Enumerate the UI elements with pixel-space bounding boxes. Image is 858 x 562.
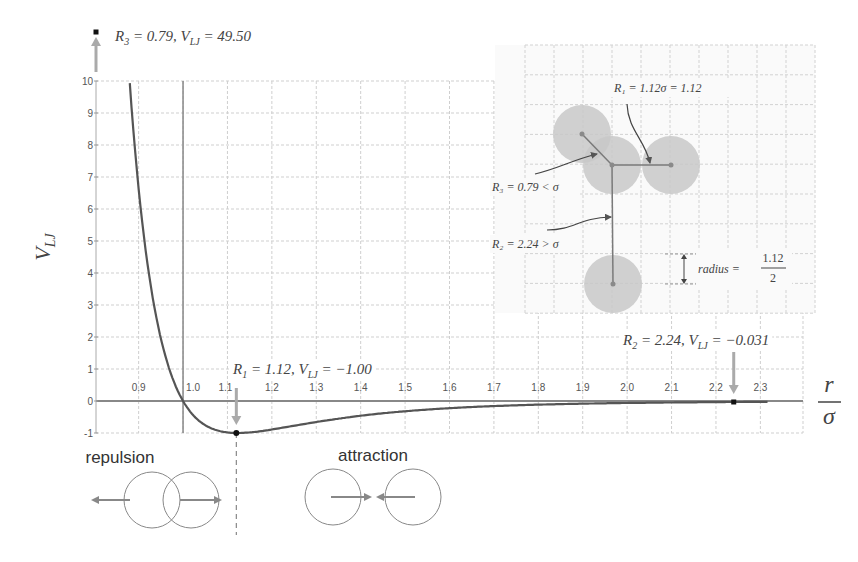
r2-label-part: = 2.24, xyxy=(637,332,688,348)
inset-label-radius-denominator: 2 xyxy=(770,271,776,285)
inset-atom-center xyxy=(669,163,674,168)
y-tick-label: 10 xyxy=(82,76,94,87)
attraction-label: attraction xyxy=(338,446,408,465)
inset-atom-center xyxy=(610,163,615,168)
x-tick-label: 2.3 xyxy=(753,382,767,393)
inset-atom-center xyxy=(611,282,616,287)
repulsion-label: repulsion xyxy=(86,448,155,467)
r3-point xyxy=(94,30,99,35)
inset-bond-r2 xyxy=(612,165,613,284)
inset-label-r3: R₃ = 0.79 < σ xyxy=(491,180,560,194)
y-axis-label: VLJ xyxy=(30,232,58,260)
y-axis-label-sub: LJ xyxy=(43,232,58,248)
r2-label-part: LJ xyxy=(697,340,709,351)
y-tick-label: 3 xyxy=(87,300,93,311)
r2-point xyxy=(731,399,736,404)
y-tick-label: 2 xyxy=(87,332,93,343)
inset-label-radius-numerator: 1.12 xyxy=(763,251,784,265)
x-tick-label: 2.1 xyxy=(665,382,679,393)
lj-potential-chart: R₁ = 1.12σ = 1.12R₃ = 0.79 < σR₂ = 2.24 … xyxy=(0,0,858,562)
y-tick-label: 9 xyxy=(87,108,93,119)
y-tick-label: 8 xyxy=(87,140,93,151)
x-tick-label: 1.1 xyxy=(218,382,232,393)
x-tick-label: 1.7 xyxy=(487,382,501,393)
svg-text:VLJ: VLJ xyxy=(30,232,58,260)
x-tick-label: 1.6 xyxy=(443,382,457,393)
x-axis-label-numerator: r xyxy=(824,371,834,397)
r1-label-part: = 1.12, xyxy=(247,361,298,377)
r1-label-part: R xyxy=(232,361,242,377)
y-tick-label: -1 xyxy=(84,428,93,439)
r1-point xyxy=(233,430,239,436)
r1-arrow-head xyxy=(231,416,241,425)
y-tick-label: 7 xyxy=(87,172,93,183)
y-tick-label: 5 xyxy=(87,236,93,247)
r1-label-part: = −1.00 xyxy=(318,361,372,377)
y-tick-label: 0 xyxy=(87,396,93,407)
x-axis-label-denominator: σ xyxy=(823,403,836,429)
force-illustrations: repulsionattraction xyxy=(86,446,442,528)
inset-diagram: R₁ = 1.12σ = 1.12R₃ = 0.79 < σR₂ = 2.24 … xyxy=(490,45,815,313)
r2-label-part: R xyxy=(622,332,632,348)
x-tick-label: 2.2 xyxy=(709,382,723,393)
inset-label-r2: R₂ = 2.24 > σ xyxy=(491,237,560,251)
r3-arrow-head xyxy=(91,37,101,46)
r2-label-part: = −0.031 xyxy=(708,332,770,348)
r3-label-part: = 0.79, xyxy=(129,28,180,44)
r3-label-part: LJ xyxy=(189,36,201,47)
inset-atom-center xyxy=(580,132,585,137)
r1-label-part: LJ xyxy=(307,369,319,380)
x-tick-label: 1.3 xyxy=(309,382,323,393)
x-axis-label: r σ xyxy=(818,371,841,429)
y-tick-label: 1 xyxy=(87,364,93,375)
y-tick-label: 4 xyxy=(87,268,93,279)
y-tick-label: 6 xyxy=(87,204,93,215)
x-tick-label: 1.8 xyxy=(531,382,545,393)
inset-label-radius: radius = xyxy=(698,262,740,276)
r3-label-part: = 49.50 xyxy=(200,28,252,44)
r2-arrow-head xyxy=(729,385,739,394)
r3-label-part: R xyxy=(114,28,124,44)
x-tick-label: 1.2 xyxy=(265,382,279,393)
x-tick-label: 1.5 xyxy=(398,382,412,393)
inset-label-r1: R₁ = 1.12σ = 1.12 xyxy=(613,81,702,95)
x-tick-label: 1.0 xyxy=(186,382,200,393)
x-tick-label: 1.9 xyxy=(576,382,590,393)
x-tick-label: 2.0 xyxy=(620,382,634,393)
x-tick-label: 1.4 xyxy=(354,382,368,393)
x-tick-label: 0.9 xyxy=(132,382,146,393)
